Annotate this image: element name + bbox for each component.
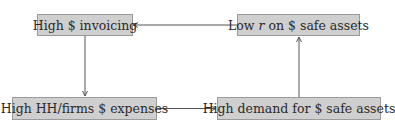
node-high-expenses: High HH/firms $ expenses [12, 97, 157, 120]
node-high-invoicing: High $ invoicing [37, 14, 133, 36]
node-label: High HH/firms $ expenses [1, 101, 169, 116]
node-low-r-safe-assets: Low r on $ safe assets [237, 14, 360, 36]
node-label: Low r on $ safe assets [228, 18, 369, 33]
node-label: High demand for $ safe assets [203, 101, 395, 116]
node-high-demand-safe-assets: High demand for $ safe assets [217, 97, 381, 120]
node-label: High $ invoicing [33, 18, 138, 33]
